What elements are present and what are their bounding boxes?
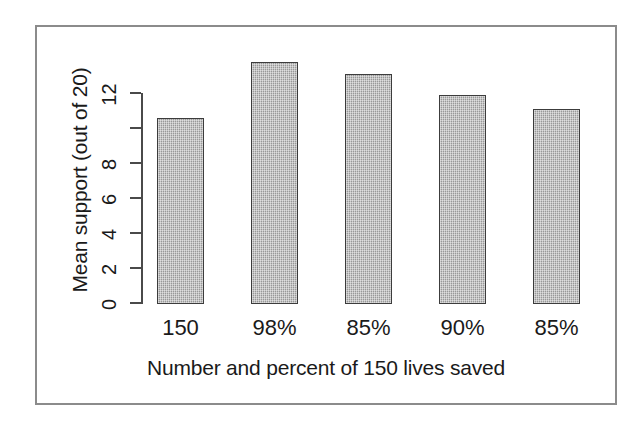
x-axis-title: Number and percent of 150 lives saved (35, 356, 617, 380)
y-axis-tick-label-text: 6 (98, 183, 121, 217)
y-axis-tick (130, 92, 141, 94)
y-axis-tick-label: 0 (92, 293, 126, 313)
y-axis-tick (130, 162, 141, 164)
bar (251, 62, 298, 305)
y-axis-line (141, 93, 143, 304)
y-axis-tick (130, 197, 141, 199)
x-axis-tick-label: 98% (228, 315, 322, 341)
y-axis-tick-label: 6 (92, 188, 126, 208)
bar (533, 109, 580, 304)
y-axis-tick (130, 127, 141, 129)
bar (439, 95, 486, 304)
y-axis-title: Mean support (out of 20) (68, 40, 92, 320)
y-axis-tick (130, 302, 141, 304)
y-axis-tick-label: 4 (92, 223, 126, 243)
x-axis-tick-label: 85% (510, 315, 604, 341)
y-axis-tick-label: 12 (92, 83, 126, 103)
y-axis-tick (130, 232, 141, 234)
figure-root: Mean support (out of 20) 0246812 15098%8… (0, 0, 644, 428)
x-axis-tick-label: 90% (416, 315, 510, 341)
y-axis-tick-label-text: 12 (98, 78, 121, 112)
x-axis-tick-label: 85% (322, 315, 416, 341)
bar (157, 118, 204, 305)
y-axis-tick-label: 2 (92, 258, 126, 278)
bar-chart-plot-area: Mean support (out of 20) 0246812 15098%8… (0, 0, 644, 428)
y-axis-tick-label-text: 4 (98, 218, 121, 252)
x-axis-tick-label: 150 (134, 315, 228, 341)
y-axis-tick (130, 267, 141, 269)
y-axis-tick-label-text: 8 (98, 148, 121, 182)
bar (345, 74, 392, 304)
y-axis-tick-label-text: 2 (98, 253, 121, 287)
y-axis-tick-label: 8 (92, 153, 126, 173)
y-axis-tick-label-text: 0 (98, 288, 121, 322)
